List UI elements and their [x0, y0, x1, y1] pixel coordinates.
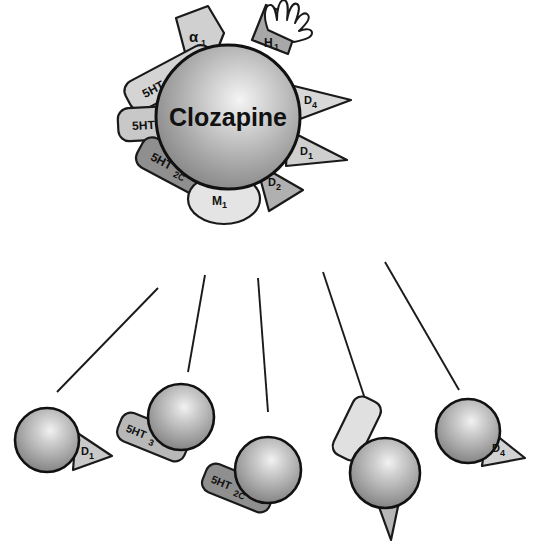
target-5ht3-sphere[interactable] — [148, 384, 214, 450]
connector-line-5 — [385, 262, 459, 390]
receptor-m1-sub: 1 — [222, 200, 227, 210]
target-d1-sub: 1 — [89, 451, 94, 461]
receptor-h1[interactable]: H 1 — [252, 0, 312, 54]
connector-line-2 — [188, 275, 205, 372]
target-h1-sphere[interactable] — [350, 438, 420, 508]
target-d4[interactable]: D 4 — [436, 399, 525, 466]
target-5ht2c[interactable]: 5HT 2C — [199, 437, 301, 515]
target-d4-sub: 4 — [500, 448, 505, 458]
receptor-m1-label: M — [212, 194, 222, 208]
page-title: Clozapine — [169, 103, 287, 131]
clozapine-receptor-figure: α 1 H 1 5HT 2 5HT 3 5HT 2C — [0, 0, 534, 548]
clozapine-cluster: α 1 H 1 5HT 2 5HT 3 5HT 2C — [117, 0, 351, 224]
connector-line-4 — [323, 272, 368, 408]
target-d1-sphere[interactable] — [15, 408, 79, 472]
connector-line-3 — [258, 278, 268, 412]
target-d1-label: D — [81, 445, 89, 457]
receptor-d2-sub: 2 — [276, 182, 281, 192]
target-5ht3[interactable]: 5HT 3 — [114, 384, 214, 464]
receptor-alpha1-label: α — [189, 28, 199, 45]
receptor-5ht3-label: 5HT — [132, 118, 156, 133]
target-h1[interactable] — [329, 393, 420, 540]
receptor-d4-label: D — [304, 94, 312, 106]
receptor-d1-label: D — [300, 145, 308, 157]
connector-lines — [57, 262, 459, 412]
receptor-d4-sub: 4 — [312, 100, 317, 110]
target-d4-label: D — [492, 442, 500, 454]
receptor-h1-sub: 1 — [274, 42, 279, 52]
target-d1[interactable]: D 1 — [15, 408, 112, 472]
target-d4-sphere[interactable] — [436, 399, 500, 463]
connector-line-1 — [57, 288, 158, 392]
receptor-h1-label: H — [264, 36, 273, 50]
figure-canvas: α 1 H 1 5HT 2 5HT 3 5HT 2C — [0, 0, 534, 548]
receptor-d1-sub: 1 — [308, 151, 313, 161]
target-5ht2c-sphere[interactable] — [235, 437, 301, 503]
